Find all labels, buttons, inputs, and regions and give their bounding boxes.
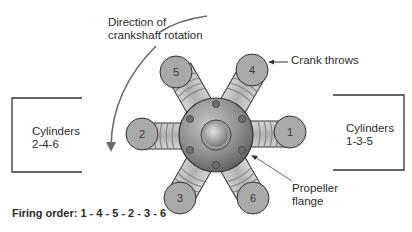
cylinders-left-line-2: 2-4-6 bbox=[32, 138, 80, 151]
throw-5: 5 bbox=[160, 56, 192, 88]
crank-throws-label: Crank throws bbox=[291, 54, 359, 67]
throw-6-number: 6 bbox=[250, 192, 256, 204]
throw-4-number: 4 bbox=[249, 64, 255, 76]
rotation-label-line-1: Direction of bbox=[108, 16, 203, 29]
firing-order-label: Firing order: 1 - 4 - 5 - 2 - 3 - 6 bbox=[12, 207, 166, 220]
throw-3-number: 3 bbox=[177, 192, 183, 204]
cylinders-left-label: Cylinders 2-4-6 bbox=[32, 125, 80, 151]
crankshaft-diagram: 1 2 3 4 5 6 bbox=[0, 0, 412, 232]
propeller-flange-line-2: flange bbox=[292, 195, 338, 208]
throw-3: 3 bbox=[164, 182, 196, 214]
rotation-label-line-2: crankshaft rotation bbox=[108, 29, 203, 42]
propeller-flange-leader bbox=[251, 155, 292, 181]
cylinders-right-line-2: 1-3-5 bbox=[346, 135, 394, 148]
cylinders-right-line-1: Cylinders bbox=[346, 122, 394, 135]
throw-4: 4 bbox=[236, 54, 268, 86]
throw-2-number: 2 bbox=[139, 128, 145, 140]
throw-6: 6 bbox=[237, 182, 269, 214]
propeller-flange-label: Propeller flange bbox=[292, 182, 338, 208]
cylinders-right-label: Cylinders 1-3-5 bbox=[346, 122, 394, 148]
rotation-label: Direction of crankshaft rotation bbox=[108, 16, 203, 42]
throw-5-number: 5 bbox=[173, 66, 179, 78]
throw-2: 2 bbox=[126, 118, 158, 150]
crank-throws-leader bbox=[268, 60, 288, 65]
propeller-flange-line-1: Propeller bbox=[292, 182, 338, 195]
cylinders-left-line-1: Cylinders bbox=[32, 125, 80, 138]
throw-1-number: 1 bbox=[287, 126, 293, 138]
propeller-flange-hub bbox=[179, 98, 253, 172]
throw-1: 1 bbox=[274, 116, 306, 148]
